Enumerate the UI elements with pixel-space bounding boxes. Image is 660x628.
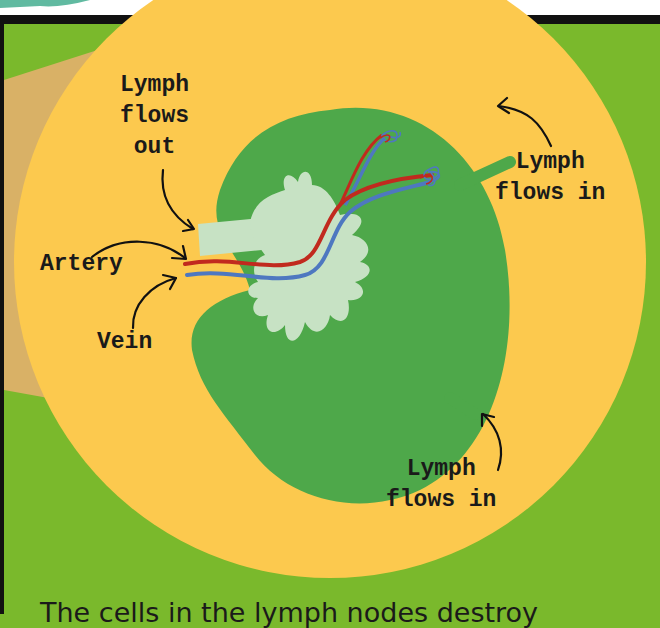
label-lymph-flows-out: Lymph flows out bbox=[120, 70, 189, 163]
caption-text: The cells in the lymph nodes destroy bbox=[40, 598, 538, 628]
label-vein: Vein bbox=[97, 327, 152, 358]
frame-left-border bbox=[0, 15, 4, 614]
label-lymph-flows-in-bottom: Lymph flows in bbox=[386, 454, 496, 516]
label-lymph-flows-in-top: Lymph flows in bbox=[495, 147, 605, 209]
label-artery: Artery bbox=[40, 249, 123, 280]
